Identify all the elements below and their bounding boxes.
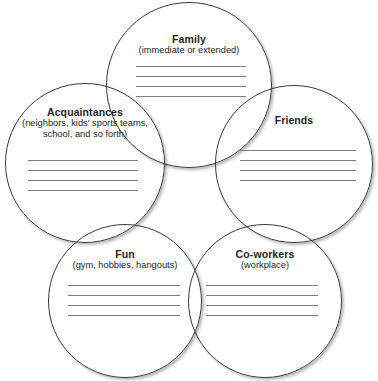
circle-outline-coworkers[interactable] [188, 224, 342, 378]
circle-outline-fun[interactable] [48, 224, 202, 378]
circle-outline-acquaintances[interactable] [5, 83, 165, 243]
circle-outline-friends[interactable] [215, 85, 373, 243]
circles-worksheet: Family (immediate or extended) Acquainta… [0, 0, 378, 381]
